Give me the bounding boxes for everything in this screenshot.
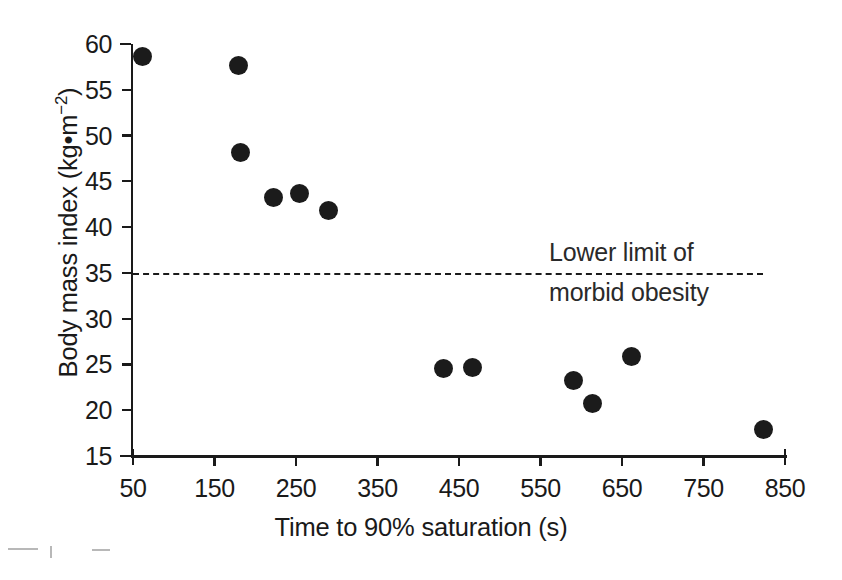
x-tick-label-550: 550: [501, 476, 581, 501]
data-point: [231, 143, 250, 162]
scan-artifact: [8, 548, 38, 550]
x-tick-450: [458, 457, 460, 466]
data-point: [754, 420, 773, 439]
x-tick-label-50: 50: [93, 476, 173, 501]
data-point: [463, 358, 482, 377]
y-axis-title-base: Body mass index (kg•m: [54, 115, 82, 378]
y-tick-50: [122, 134, 131, 136]
data-point: [622, 347, 641, 366]
x-axis-title: Time to 90% saturation (s): [0, 513, 842, 542]
y-tick-label-15: 15: [50, 444, 112, 469]
x-tick-850: [784, 449, 786, 465]
threshold-annotation-line-1: Lower limit of: [549, 238, 693, 267]
y-axis-title-close: ): [54, 88, 82, 96]
y-tick-60: [120, 43, 131, 45]
scan-artifact: [50, 546, 52, 558]
x-tick-label-650: 650: [582, 476, 662, 501]
x-tick-750: [702, 457, 704, 466]
y-tick-35: [122, 272, 131, 274]
data-point: [583, 394, 602, 413]
data-point: [564, 371, 583, 390]
x-tick-150: [213, 457, 215, 466]
x-tick-label-750: 750: [664, 476, 744, 501]
y-axis-title: Body mass index (kg•m−2): [54, 23, 83, 443]
data-point: [319, 201, 338, 220]
x-tick-label-450: 450: [419, 476, 499, 501]
x-tick-650: [621, 457, 623, 466]
scan-artifact: [92, 549, 110, 551]
x-tick-label-350: 350: [338, 476, 418, 501]
morbid-obesity-threshold-line: [133, 273, 763, 275]
y-tick-30: [122, 318, 131, 320]
x-tick-550: [539, 457, 541, 466]
data-point: [229, 56, 248, 75]
x-tick-250: [295, 457, 297, 466]
y-axis-line: [131, 44, 133, 458]
y-tick-55: [122, 89, 131, 91]
y-tick-25: [122, 363, 131, 365]
data-point: [264, 188, 283, 207]
threshold-annotation-line-2: morbid obesity: [549, 278, 709, 307]
y-tick-15: [120, 455, 131, 457]
y-tick-45: [122, 180, 131, 182]
x-tick-label-850: 850: [745, 476, 825, 501]
y-tick-40: [122, 226, 131, 228]
x-tick-label-250: 250: [256, 476, 336, 501]
data-point: [434, 359, 453, 378]
x-tick-350: [376, 457, 378, 466]
y-tick-20: [122, 409, 131, 411]
x-tick-label-150: 150: [175, 476, 255, 501]
scatter-plot-figure: 15202530354045505560 5015025035045055065…: [0, 0, 842, 580]
x-tick-50: [132, 449, 134, 465]
data-point: [290, 184, 309, 203]
y-axis-title-exponent: −2: [52, 96, 71, 115]
data-point: [133, 47, 152, 66]
